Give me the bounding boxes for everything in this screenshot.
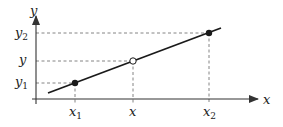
- point-x1-y1: [72, 80, 78, 86]
- x2-label: x2: [203, 104, 216, 121]
- x-label: x: [129, 104, 137, 119]
- x1-label: x1: [69, 104, 82, 121]
- y-label: y: [18, 52, 27, 67]
- y2-label: y2: [14, 25, 28, 42]
- y-axis-label: y: [29, 3, 38, 18]
- diagram-canvas: y x y2 y y1 x1 x x2: [0, 0, 283, 127]
- interpolation-diagram: y x y2 y y1 x1 x x2: [0, 0, 283, 127]
- point-x2-y2: [206, 30, 212, 36]
- y1-label: y1: [14, 74, 28, 91]
- point-x-y: [130, 58, 136, 64]
- x-axis-label: x: [263, 92, 271, 107]
- dashed-guides: [36, 33, 209, 104]
